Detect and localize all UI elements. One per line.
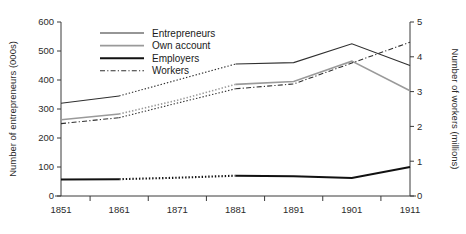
y-tick-label-left: 0: [49, 190, 54, 201]
legend-label: Own account: [152, 40, 211, 51]
y-tick-label-right: 5: [417, 16, 422, 27]
y-axis-title-left: Number of entrepreneurs (000s): [7, 41, 18, 177]
y-tick-label-right: 2: [417, 121, 422, 132]
chart-canvas: 0100200300400500600012345185118611871188…: [0, 0, 466, 234]
legend: EntrepreneursOwn accountEmployersWorkers: [100, 28, 215, 77]
x-tick-label: 1861: [109, 204, 130, 215]
series-segment: [119, 89, 235, 118]
x-tick-label: 1871: [167, 204, 188, 215]
legend-label: Workers: [152, 65, 189, 76]
y-tick-label-left: 300: [38, 103, 54, 114]
legend-label: Entrepreneurs: [152, 28, 215, 39]
series-segment: [119, 84, 235, 114]
x-tick-label: 1891: [283, 204, 304, 215]
series-own-account: [61, 61, 410, 120]
y-tick-label-right: 0: [417, 190, 422, 201]
y-tick-label-left: 400: [38, 74, 54, 85]
x-tick-label: 1851: [50, 204, 71, 215]
legend-label: Employers: [152, 53, 199, 64]
y-tick-label-left: 600: [38, 16, 54, 27]
series-workers: [61, 42, 410, 123]
series-employers: [61, 167, 410, 179]
y-tick-label-left: 200: [38, 132, 54, 143]
series-entrepreneurs: [61, 44, 410, 103]
series-segment: [119, 176, 235, 179]
series-segment: [236, 61, 411, 91]
y-tick-label-right: 1: [417, 156, 422, 167]
y-tick-label-right: 3: [417, 86, 422, 97]
x-tick-label: 1911: [400, 204, 420, 215]
series-segment: [236, 167, 411, 178]
line-chart: 0100200300400500600012345185118611871188…: [0, 0, 466, 234]
x-tick-label: 1901: [341, 204, 362, 215]
y-tick-label-right: 4: [417, 51, 422, 62]
x-tick-label: 1881: [225, 204, 246, 215]
y-tick-label-left: 500: [38, 45, 54, 56]
y-tick-label-left: 100: [38, 161, 54, 172]
series-segment: [236, 44, 411, 66]
series-segment: [236, 42, 411, 89]
y-axis-title-right: Number of workers (millions): [450, 49, 461, 170]
series-segment: [61, 96, 119, 103]
